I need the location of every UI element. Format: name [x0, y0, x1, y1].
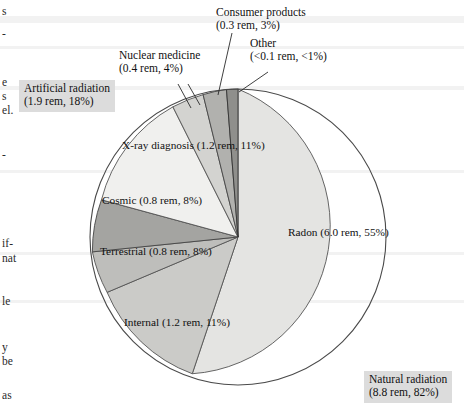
callout-other: Other (<0.1 rem, <1%) — [250, 37, 327, 64]
callout-consumer-products: Consumer products (0.3 rem, 3%) — [216, 6, 306, 33]
callout-nuclear-medicine: Nuclear medicine (0.4 rem, 4%) — [119, 49, 200, 76]
group-label-artificial-radiation-line1: Artificial radiation — [24, 82, 110, 94]
radiation-dose-pie-chart: Consumer products (0.3 rem, 3%) Other (<… — [0, 0, 464, 413]
slice-label-cosmic-line1: Cosmic — [102, 194, 137, 206]
slice-label-cosmic: Cosmic (0.8 rem, 8%) — [102, 194, 202, 207]
callout-other-line2: (<0.1 rem, <1%) — [250, 50, 327, 63]
group-label-artificial-radiation: Artificial radiation (1.9 rem, 18%) — [19, 80, 115, 112]
slice-label-xray-diagnosis-line1: X-ray — [122, 139, 148, 151]
callout-nuclear-medicine-line2: (0.4 rem, 4%) — [119, 62, 200, 75]
slice-label-terrestrial-line2: (0.8 rem, 8%) — [149, 245, 212, 257]
slice-label-internal: Internal (1.2 rem, 11%) — [124, 316, 230, 329]
leader-line-other — [239, 72, 268, 92]
pie-chart-svg — [0, 0, 464, 413]
slice-label-xray-diagnosis-line2: (1.2 rem, 11%) — [197, 139, 265, 151]
slice-label-internal-line1: Internal — [124, 316, 159, 328]
callout-consumer-products-line2: (0.3 rem, 3%) — [216, 19, 306, 32]
leader-line-consumer-products — [218, 33, 232, 95]
callout-nuclear-medicine-line1: Nuclear medicine — [119, 49, 200, 61]
group-label-natural-radiation: Natural radiation (8.8 rem, 82%) — [364, 371, 452, 403]
slice-label-radon-line1: Radon — [288, 226, 318, 238]
callout-other-line1: Other — [250, 37, 276, 49]
callout-consumer-products-line1: Consumer products — [216, 6, 306, 18]
group-label-artificial-radiation-line2: (1.9 rem, 18%) — [24, 95, 110, 108]
slice-label-terrestrial-line1: Terrestrial — [100, 245, 146, 257]
group-label-natural-radiation-line2: (8.8 rem, 82%) — [369, 386, 447, 399]
slice-label-radon-line2: (6.0 rem, 55%) — [320, 226, 388, 238]
slice-label-xray-diagnosis: X-ray diagnosis (1.2 rem, 11%) — [122, 139, 265, 152]
slice-label-cosmic-line2: (0.8 rem, 8%) — [139, 194, 202, 206]
slice-label-radon: Radon (6.0 rem, 55%) — [288, 226, 389, 239]
slice-label-terrestrial: Terrestrial (0.8 rem, 8%) — [100, 245, 212, 258]
slice-label-internal-line2: (1.2 rem, 11%) — [162, 316, 230, 328]
slice-label-xray-diagnosis-line1b: diagnosis — [151, 139, 194, 151]
group-label-natural-radiation-line1: Natural radiation — [369, 373, 447, 385]
